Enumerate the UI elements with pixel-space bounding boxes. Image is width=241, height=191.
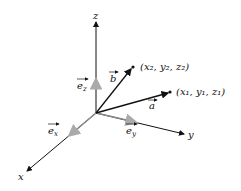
- coordinate-diagram: z y x e z e x e y b a (x₂, y₂, z₂) (x₁, …: [0, 0, 241, 191]
- ey-vector: [96, 113, 135, 122]
- point-b: [131, 65, 134, 68]
- point-a: [168, 90, 171, 93]
- ez-label: e z: [77, 79, 88, 93]
- svg-text:a: a: [149, 100, 155, 111]
- b-label: b: [109, 72, 118, 84]
- a-label: a: [148, 100, 157, 111]
- y-axis-label: y: [187, 129, 194, 140]
- point-b-coords: (x₂, y₂, z₂): [140, 61, 189, 72]
- ey-label: e y: [126, 124, 137, 138]
- svg-text:y: y: [131, 130, 137, 138]
- vector-a: [96, 93, 168, 113]
- point-a-coords: (x₁, y₁, z₁): [176, 86, 225, 97]
- x-axis-label: x: [18, 171, 24, 182]
- ex-vector: [70, 113, 96, 135]
- ex-label: e x: [48, 124, 59, 138]
- svg-text:x: x: [54, 130, 58, 138]
- z-axis-label: z: [92, 10, 99, 21]
- svg-text:b: b: [110, 73, 116, 84]
- svg-text:z: z: [82, 85, 87, 93]
